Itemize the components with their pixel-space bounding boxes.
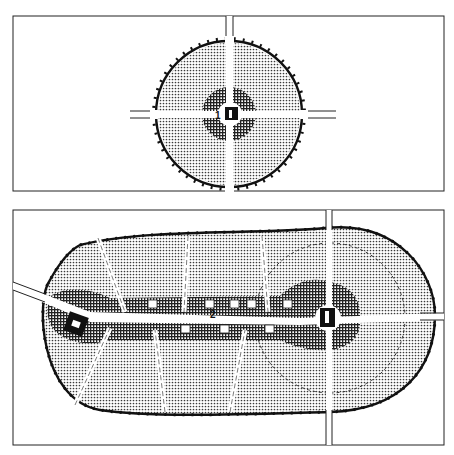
label-2: 2 — [210, 309, 216, 320]
panel-bottom: 2 — [13, 210, 444, 445]
core-building-right — [320, 308, 335, 327]
panel-top: 1 — [13, 16, 444, 192]
town-plan-diagram: 1 — [0, 0, 454, 455]
label-1: 1 — [215, 110, 221, 121]
